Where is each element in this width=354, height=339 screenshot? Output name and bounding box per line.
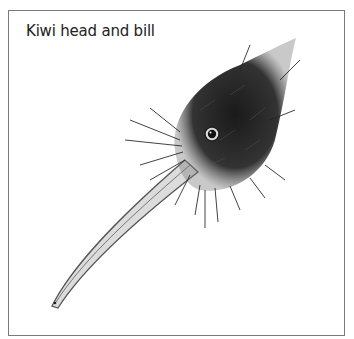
eye: [205, 127, 219, 141]
bill: [52, 160, 198, 308]
kiwi-illustration: [0, 0, 354, 339]
